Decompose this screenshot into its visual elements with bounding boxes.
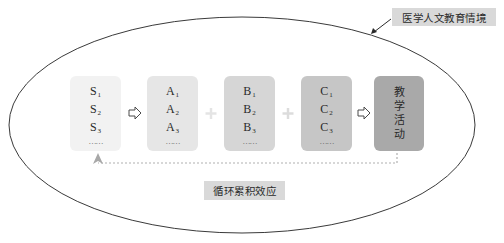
column-item: C2 (320, 100, 333, 118)
feedback-arrowhead-up-icon (93, 153, 103, 164)
arrow-right-icon (129, 107, 141, 119)
column-item: A2 (166, 100, 179, 118)
feedback-dashed-path (93, 153, 397, 164)
column-item: B1 (243, 82, 256, 100)
column-item: S2 (90, 100, 101, 118)
diagram-canvas: 医学人文教育情境 S1 S2 S3 …… A1 A2 A3 …… B1 B2 B… (0, 0, 504, 243)
column-c-box: C1 C2 C3 …… (301, 76, 352, 151)
column-b-box: B1 B2 B3 …… (224, 76, 275, 151)
plus-icon (283, 108, 294, 119)
column-ellipsis: …… (320, 138, 334, 146)
column-item: B3 (243, 118, 256, 136)
context-leader-arrow (371, 19, 391, 34)
column-ellipsis: …… (243, 138, 257, 146)
feedback-label: 循环累积效应 (204, 181, 285, 200)
teaching-activity-box: 教 学 活 动 (374, 76, 424, 151)
column-item: A1 (166, 82, 179, 100)
context-label: 医学人文教育情境 (392, 8, 496, 26)
activity-char: 教 (394, 86, 405, 100)
column-item: C1 (320, 82, 333, 100)
column-item: C3 (320, 118, 333, 136)
column-item: A3 (166, 118, 179, 136)
column-s-box: S1 S2 S3 …… (70, 76, 121, 151)
activity-char: 活 (394, 114, 405, 128)
column-item: B2 (243, 100, 256, 118)
column-item: S1 (90, 82, 101, 100)
activity-char: 动 (394, 128, 405, 142)
column-ellipsis: …… (166, 138, 180, 146)
activity-char: 学 (394, 100, 405, 114)
arrow-right-icon (358, 107, 370, 119)
plus-icon (206, 108, 217, 119)
column-ellipsis: …… (89, 138, 103, 146)
column-item: S3 (90, 118, 101, 136)
column-a-box: A1 A2 A3 …… (147, 76, 198, 151)
